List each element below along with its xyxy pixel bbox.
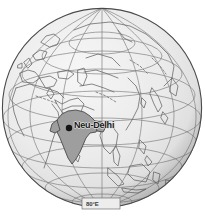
globe-svg: [0, 0, 205, 219]
globe-rim-shading: [2, 8, 202, 208]
city-label-neu-delhi: Neu-Delhi: [74, 120, 114, 130]
city-marker-dot[interactable]: [66, 125, 72, 131]
longitude-label: 80°E: [86, 201, 99, 207]
globe-figure: Neu-Delhi 80°E: [0, 0, 205, 219]
